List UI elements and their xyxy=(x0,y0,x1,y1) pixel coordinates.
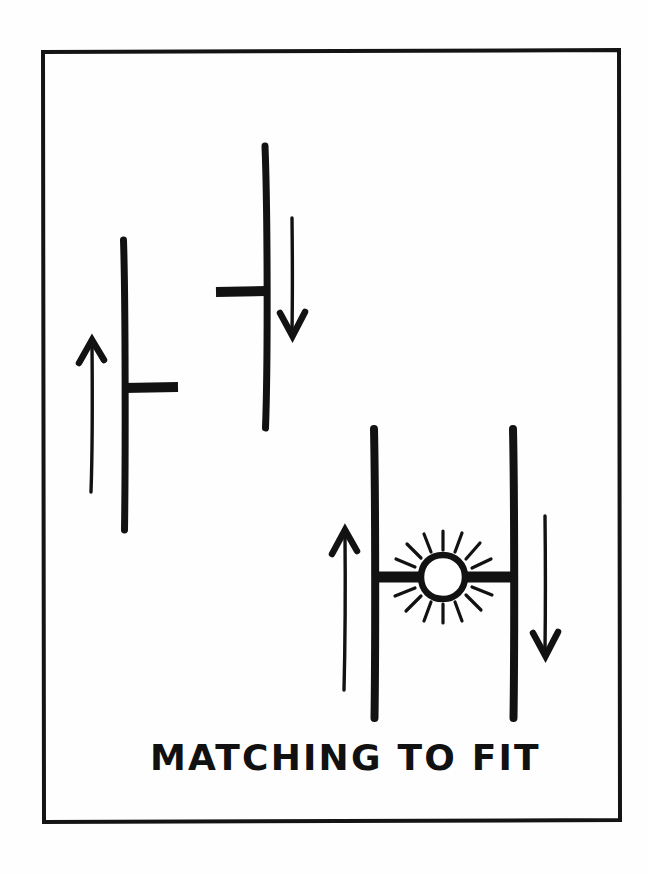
up-arrow-shaft xyxy=(344,536,345,690)
caption-text: MATCHING TO FIT xyxy=(150,737,541,778)
left-connector-arm xyxy=(124,387,178,388)
upper-connector-arm xyxy=(216,291,267,292)
caption: MATCHING TO FIT xyxy=(150,737,541,778)
spark-circle xyxy=(421,555,465,599)
up-arrow-shaft xyxy=(91,345,92,492)
drawing-page: MATCHING TO FIT xyxy=(0,0,648,874)
matched-right-post xyxy=(513,429,514,718)
hand-drawn-diagram-canvas: MATCHING TO FIT xyxy=(0,0,648,874)
